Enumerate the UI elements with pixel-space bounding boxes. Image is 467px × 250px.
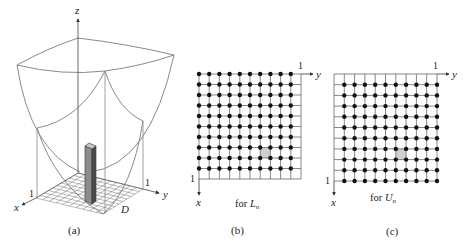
sample-point xyxy=(268,166,272,170)
sample-point xyxy=(404,179,408,183)
sample-point xyxy=(268,145,272,149)
sample-point xyxy=(352,93,356,97)
sample-point xyxy=(404,136,408,140)
sample-point xyxy=(394,136,398,140)
sample-point xyxy=(414,125,418,129)
sample-point xyxy=(207,82,211,86)
sample-point xyxy=(425,83,429,87)
sample-point xyxy=(394,147,398,151)
sample-point xyxy=(383,168,387,172)
x-tick-1: 1 xyxy=(29,188,34,199)
sample-point xyxy=(363,157,367,161)
sample-point xyxy=(289,103,293,107)
sample-point xyxy=(227,145,231,149)
sample-point xyxy=(404,168,408,172)
sample-point xyxy=(363,168,367,172)
sample-point xyxy=(197,114,201,118)
sample-point xyxy=(289,145,293,149)
sample-point xyxy=(238,145,242,149)
sample-point xyxy=(278,72,282,76)
sample-point xyxy=(227,135,231,139)
sample-point xyxy=(363,125,367,129)
x-axis-label: x xyxy=(195,196,201,208)
sample-point xyxy=(217,156,221,160)
sample-point xyxy=(435,136,439,140)
sample-point xyxy=(217,166,221,170)
sample-point xyxy=(425,179,429,183)
x-axis xyxy=(22,198,36,205)
sample-point xyxy=(248,114,252,118)
sample-point xyxy=(227,103,231,107)
sample-point xyxy=(373,179,377,183)
sample-point xyxy=(342,179,346,183)
sample-point xyxy=(278,114,282,118)
sample-point xyxy=(373,115,377,119)
sample-point xyxy=(289,156,293,160)
panel-c-upper-sum-grid: y x 1 1 for Un (c) xyxy=(325,60,457,238)
note-lower-sum: for Ln xyxy=(235,198,260,211)
sample-point xyxy=(238,72,242,76)
sample-point xyxy=(404,125,408,129)
sample-point xyxy=(435,147,439,151)
sample-point xyxy=(383,104,387,108)
sample-point xyxy=(217,114,221,118)
y-axis xyxy=(143,189,159,193)
sample-point xyxy=(289,114,293,118)
sample-point xyxy=(373,93,377,97)
sample-point xyxy=(342,125,346,129)
sample-point xyxy=(363,147,367,151)
sample-point xyxy=(238,135,242,139)
sample-point xyxy=(342,147,346,151)
y-axis-label: y xyxy=(451,68,457,80)
sample-point xyxy=(435,168,439,172)
sample-point xyxy=(248,156,252,160)
figure: z x y 1 1 D (a) y x 1 1 for Ln (b) y x 1… xyxy=(0,0,467,250)
z-axis-label: z xyxy=(74,4,80,16)
sample-point xyxy=(197,72,201,76)
sample-point xyxy=(278,135,282,139)
sample-point xyxy=(278,145,282,149)
sample-point xyxy=(248,145,252,149)
sample-point xyxy=(197,145,201,149)
sample-point xyxy=(278,82,282,86)
sample-point xyxy=(414,93,418,97)
sample-point xyxy=(394,157,398,161)
sample-point xyxy=(258,114,262,118)
sample-point xyxy=(383,93,387,97)
sample-point xyxy=(394,125,398,129)
sample-point xyxy=(394,179,398,183)
sample-point xyxy=(227,93,231,97)
sample-point xyxy=(435,179,439,183)
sample-point xyxy=(425,115,429,119)
sample-point xyxy=(373,125,377,129)
sample-point xyxy=(227,114,231,118)
column-box xyxy=(85,143,96,204)
sample-point xyxy=(383,147,387,151)
sample-point xyxy=(217,103,221,107)
sample-point xyxy=(238,166,242,170)
sample-point xyxy=(217,93,221,97)
sample-point xyxy=(383,179,387,183)
sample-point xyxy=(414,83,418,87)
sample-point xyxy=(342,168,346,172)
sample-point xyxy=(404,83,408,87)
sample-point xyxy=(238,114,242,118)
sample-point xyxy=(278,166,282,170)
sample-point xyxy=(435,83,439,87)
sample-point xyxy=(404,93,408,97)
sample-point xyxy=(197,82,201,86)
sample-points xyxy=(197,72,293,171)
sample-point xyxy=(227,82,231,86)
sample-point xyxy=(258,72,262,76)
sample-point xyxy=(217,72,221,76)
sample-point xyxy=(207,166,211,170)
y-tick-1: 1 xyxy=(433,60,438,71)
sample-point xyxy=(425,125,429,129)
panel-a-3d-plot: z x y 1 1 D (a) xyxy=(13,4,174,237)
sample-point xyxy=(352,125,356,129)
sample-point xyxy=(217,124,221,128)
sample-point xyxy=(404,157,408,161)
sample-point xyxy=(278,93,282,97)
x-tick-1: 1 xyxy=(190,173,195,184)
sample-point xyxy=(258,103,262,107)
